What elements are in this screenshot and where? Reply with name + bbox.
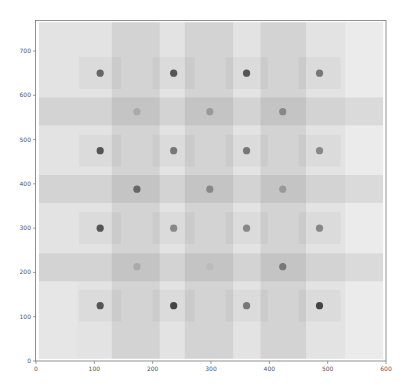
data-point	[206, 108, 213, 115]
y-tick-label: 500	[20, 136, 32, 143]
data-point	[206, 263, 213, 270]
data-point	[206, 186, 213, 193]
data-point	[243, 147, 250, 154]
data-point	[316, 302, 323, 309]
data-point	[133, 186, 140, 193]
data-point	[279, 186, 286, 193]
data-point	[97, 147, 104, 154]
x-tick-label: 200	[147, 365, 159, 372]
data-point	[133, 108, 140, 115]
data-point	[316, 70, 323, 77]
figure: 0100200300400500600 01002003004005006007…	[0, 0, 408, 390]
data-point	[170, 147, 177, 154]
image-light-patch	[39, 281, 77, 359]
data-point	[97, 302, 104, 309]
data-point	[133, 263, 140, 270]
data-point	[279, 263, 286, 270]
y-tick-label: 600	[20, 91, 32, 98]
x-tick-label: 0	[34, 365, 38, 372]
data-point	[170, 302, 177, 309]
y-tick-label: 100	[20, 313, 32, 320]
y-tick-label: 400	[20, 180, 32, 187]
y-tick-label: 700	[20, 47, 32, 54]
x-tick-label: 300	[205, 365, 217, 372]
data-point	[97, 70, 104, 77]
x-tick-label: 600	[380, 365, 392, 372]
data-point	[279, 108, 286, 115]
data-point	[170, 225, 177, 232]
data-point	[243, 225, 250, 232]
y-tick-label: 200	[20, 268, 32, 275]
x-tick-label: 500	[322, 365, 334, 372]
x-axis: 0100200300400500600	[34, 361, 392, 372]
x-tick-label: 100	[89, 365, 101, 372]
data-point	[170, 70, 177, 77]
data-point	[316, 147, 323, 154]
y-tick-label: 300	[20, 224, 32, 231]
data-point	[316, 225, 323, 232]
y-axis: 0100200300400500600700	[20, 47, 36, 364]
y-tick-label: 0	[27, 357, 31, 364]
data-point	[243, 70, 250, 77]
data-point	[97, 225, 104, 232]
data-point	[243, 302, 250, 309]
x-tick-label: 400	[264, 365, 276, 372]
